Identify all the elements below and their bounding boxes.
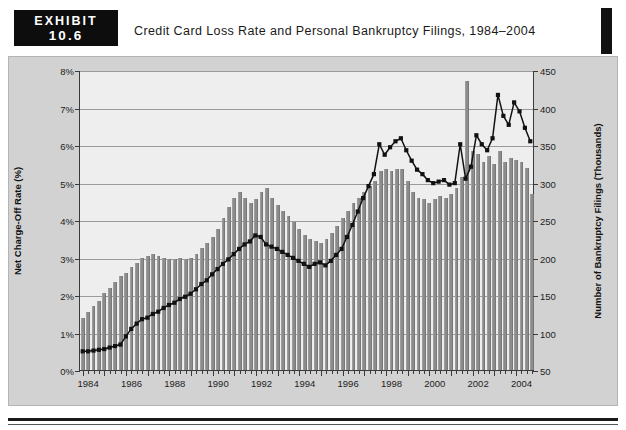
x-axis-tick [489,370,490,374]
page-edge-tab [601,8,612,54]
exhibit-page: EXHIBIT 10.6 Credit Card Loss Rate and P… [0,0,626,430]
bankruptcy-line-marker [102,347,106,351]
x-axis-tick [267,370,268,374]
y-axis-left-tick-label: 7% [60,103,74,114]
y-axis-right-tick [533,296,538,297]
x-axis-tick [104,370,105,376]
bankruptcy-line-marker [361,196,365,200]
x-axis-tick [169,370,170,376]
x-axis-tick [326,370,327,374]
x-axis-tick [478,370,479,374]
x-axis-tick [224,370,225,374]
x-axis-tick [511,370,512,374]
x-axis-tick-label: 1998 [381,378,402,389]
y-axis-right-tick [533,259,538,260]
y-axis-right-label: Number of Bankruptcy Filings (Thousands) [592,123,603,318]
x-axis-tick-label: 2002 [468,378,489,389]
bankruptcy-line-marker [302,262,306,266]
bankruptcy-line-marker [383,153,387,157]
y-axis-right-tick-label: 400 [540,103,556,114]
bankruptcy-line-marker [420,172,424,176]
x-axis-tick [462,370,463,374]
x-axis-tick-label: 1986 [121,378,142,389]
bankruptcy-line-marker [372,172,376,176]
bankruptcy-line-marker [86,349,90,353]
x-axis-tick [364,370,365,376]
y-axis-left-tick [75,334,80,335]
bankruptcy-line-marker [194,287,198,291]
x-axis-tick [413,370,414,374]
bankruptcy-line-marker [242,242,246,246]
bankruptcy-line-marker [178,297,182,301]
y-axis-left-tick [75,296,80,297]
bankruptcy-line-marker [496,93,500,97]
x-axis-tick [137,370,138,374]
x-axis-tick [375,370,376,374]
bankruptcy-line-marker [366,184,370,188]
y-axis-right-tick-label: 200 [540,253,556,264]
x-axis-tick [305,370,306,374]
x-axis-tick [402,370,403,374]
y-axis-right-tick-label: 450 [540,66,556,77]
x-axis-tick [148,370,149,376]
y-axis-right-tick-label: 300 [540,178,556,189]
x-axis-tick [446,370,447,374]
bankruptcy-line-marker [528,139,532,143]
x-axis-tick [391,370,392,374]
bankruptcy-line-marker [426,178,430,182]
bankruptcy-line-marker [108,345,112,349]
x-axis-tick [494,370,495,376]
y-axis-right-tick-label: 150 [540,291,556,302]
x-axis-tick [408,370,409,376]
x-axis-tick [473,370,474,376]
bankruptcy-line-marker [345,235,349,239]
x-axis-tick [213,370,214,376]
x-axis-tick-label: 1996 [338,378,359,389]
x-axis-tick [207,370,208,374]
x-axis-tick [424,370,425,374]
x-axis-tick [294,370,295,374]
y-axis-right-tick [533,184,538,185]
plot-area: 0%1%2%3%4%5%6%7%8% 501001502002503003504… [79,71,534,371]
x-axis-tick [343,370,344,376]
x-axis-tick [88,370,89,374]
bankruptcy-line-marker [388,145,392,149]
x-axis-tick [429,370,430,376]
bankruptcy-line-marker [339,247,343,251]
x-axis-tick [500,370,501,374]
y-axis-right-tick [533,371,538,372]
bankruptcy-line-marker [188,292,192,296]
x-axis-tick [229,370,230,374]
bankruptcy-line-marker [210,272,214,276]
bankruptcy-line-marker [113,344,117,348]
x-axis-tick [191,370,192,376]
bankruptcy-line-marker [393,139,397,143]
y-axis-right-tick [533,221,538,222]
bankruptcy-line-marker [259,235,263,239]
bankruptcy-line-marker [410,159,414,163]
y-axis-left-tick [75,184,80,185]
x-axis-tick [435,370,436,374]
bankruptcy-line-marker [437,180,441,184]
y-axis-right-tick-label: 250 [540,216,556,227]
x-axis-tick [467,370,468,374]
x-axis-tick [196,370,197,374]
x-axis-tick [397,370,398,374]
x-axis-tick [381,370,382,374]
x-axis-tick [251,370,252,374]
x-axis-tick [321,370,322,376]
bankruptcy-line-marker [447,183,451,187]
bankruptcy-line-marker [458,142,462,146]
x-axis-tick-label: 1990 [208,378,229,389]
bankruptcy-line-marker [172,301,176,305]
y-axis-right-tick-label: 50 [540,366,551,377]
y-axis-left-tick [75,71,80,72]
x-axis-tick [516,370,517,376]
bankruptcy-line-marker [129,327,133,331]
x-axis-tick [115,370,116,374]
bankruptcy-line-marker [329,259,333,263]
bankruptcy-line-marker [97,348,101,352]
bankruptcy-line-marker [404,148,408,152]
bankruptcy-line-marker [453,181,457,185]
bankruptcy-line-marker [463,177,467,181]
